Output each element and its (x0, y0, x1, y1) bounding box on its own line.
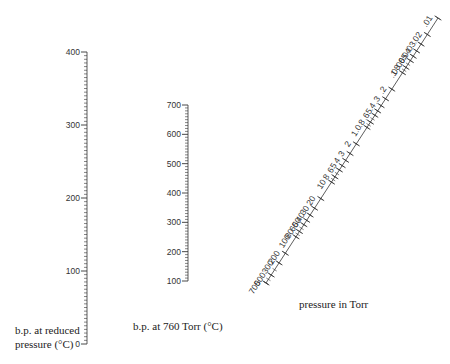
svg-text:700: 700 (167, 100, 181, 110)
pressure-label: pressure in Torr (299, 297, 368, 311)
svg-text:.2: .2 (376, 84, 388, 96)
svg-text:500: 500 (167, 159, 181, 169)
svg-text:400: 400 (167, 188, 181, 198)
svg-text:2: 2 (342, 139, 353, 149)
bp-760-label: b.p. at 760 Torr (°C) (133, 319, 223, 333)
svg-text:200: 200 (167, 247, 181, 257)
reduced-bp-label-1: b.p. at reduced (15, 323, 80, 337)
svg-text:300: 300 (66, 120, 80, 130)
svg-text:100: 100 (66, 266, 80, 276)
svg-text:0: 0 (75, 339, 80, 349)
svg-text:400: 400 (66, 47, 80, 57)
nomograph: 0100200300400100200300400500600700.01.02… (0, 0, 450, 364)
svg-text:200: 200 (66, 193, 80, 203)
svg-text:3: 3 (336, 149, 347, 159)
svg-text:20: 20 (304, 194, 318, 208)
svg-text:300: 300 (167, 217, 181, 227)
svg-text:100: 100 (167, 276, 181, 286)
reduced-bp-label-2: pressure (°C) (15, 337, 73, 351)
svg-text:600: 600 (167, 129, 181, 139)
